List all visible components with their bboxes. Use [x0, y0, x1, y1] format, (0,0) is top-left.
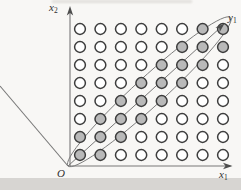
- lattice-point: [197, 114, 208, 125]
- lattice-point: [95, 78, 106, 89]
- lattice-point-shaded: [75, 150, 86, 161]
- lattice-point: [75, 96, 86, 107]
- lattice-point: [116, 150, 127, 161]
- lattice-point: [197, 78, 208, 89]
- lattice-point: [136, 150, 147, 161]
- lattice-point: [156, 132, 167, 143]
- lattice-point: [197, 150, 208, 161]
- lattice-point-shaded: [116, 114, 127, 125]
- lattice-point: [95, 42, 106, 53]
- lattice-point-shaded: [136, 96, 147, 107]
- lattice-vector-figure: x2 x1 O y1: [0, 0, 241, 190]
- lattice-point: [177, 132, 188, 143]
- lattice-point-shaded: [136, 78, 147, 89]
- lattice-point: [136, 42, 147, 53]
- lattice-point: [218, 78, 229, 89]
- x1-axis-label: x1: [219, 169, 228, 183]
- lattice-point-shaded: [116, 132, 127, 143]
- lattice-point-shaded: [156, 96, 167, 107]
- lattice-point: [218, 60, 229, 71]
- lattice-point: [116, 24, 127, 35]
- lattice-point-shaded: [197, 42, 208, 53]
- lattice-point: [156, 24, 167, 35]
- lattice-point-shaded: [197, 60, 208, 71]
- lattice-point: [177, 96, 188, 107]
- lattice-point: [177, 150, 188, 161]
- lattice-point: [136, 132, 147, 143]
- lattice-point: [156, 114, 167, 125]
- lattice-point: [156, 42, 167, 53]
- lattice-point: [218, 150, 229, 161]
- lattice-point: [75, 78, 86, 89]
- lattice-point-shaded: [177, 60, 188, 71]
- lattice-point: [218, 96, 229, 107]
- lattice-point: [95, 96, 106, 107]
- lattice-point-shaded: [177, 78, 188, 89]
- lattice-point-shaded: [116, 96, 127, 107]
- lattice-point: [218, 114, 229, 125]
- lattice-point: [218, 132, 229, 143]
- lattice-point-shaded: [218, 42, 229, 53]
- lattice-point: [116, 42, 127, 53]
- lattice-point-shaded: [95, 114, 106, 125]
- lattice-point-shaded: [136, 114, 147, 125]
- lattice-point-shaded: [75, 132, 86, 143]
- lattice-point-shaded: [177, 42, 188, 53]
- lattice-point: [177, 114, 188, 125]
- lattice-point: [75, 114, 86, 125]
- lattice-point-shaded: [156, 60, 167, 71]
- lattice-point: [95, 60, 106, 71]
- lattice-point: [75, 42, 86, 53]
- x2-axis-label: x2: [49, 2, 58, 16]
- lattice-point: [177, 24, 188, 35]
- figure-svg: [0, 0, 241, 190]
- lattice-point: [197, 132, 208, 143]
- vector-y1-label: y1: [228, 12, 237, 26]
- lattice-point: [136, 60, 147, 71]
- lattice-point: [116, 78, 127, 89]
- lattice-point: [136, 24, 147, 35]
- lattice-point: [156, 150, 167, 161]
- lattice-point-shaded: [197, 24, 208, 35]
- lattice-point: [75, 24, 86, 35]
- lattice-point: [116, 60, 127, 71]
- lattice-point-shaded: [95, 132, 106, 143]
- lattice-point-shaded: [95, 150, 106, 161]
- lattice-point: [197, 96, 208, 107]
- origin-label: O: [57, 168, 65, 179]
- upleft-diagonal-line: [0, 86, 68, 166]
- lattice-point-shaded: [156, 78, 167, 89]
- lattice-point: [75, 60, 86, 71]
- lattice-point: [95, 24, 106, 35]
